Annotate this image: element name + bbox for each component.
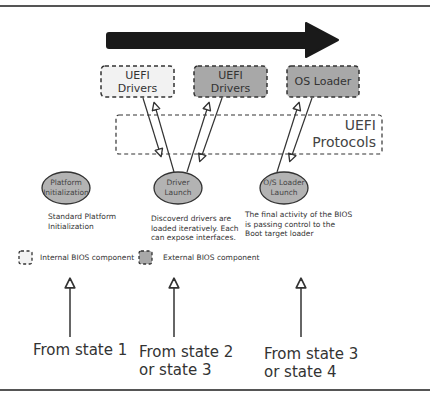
driver-launch-line2: Launch	[164, 188, 191, 198]
driver-launch-description: Discoverd drivers are loaded iteratively…	[151, 214, 239, 243]
entry-state-2-label: From state 2 or state 3	[139, 343, 233, 379]
os-loader-launch-line2: Launch	[263, 188, 304, 198]
platform-initialization-line1: Platform	[43, 178, 89, 188]
driver-desc-line1: Discoverd drivers are	[151, 214, 239, 224]
legend-internal-label: Internal BIOS component	[40, 253, 134, 263]
uefi-protocols-line2: Protocols	[290, 134, 376, 151]
entry-state-1-label: From state 1	[33, 341, 127, 359]
os-loader-label: OS Loader	[287, 66, 359, 97]
os-loader-desc-line2: is passing control to the	[245, 220, 352, 230]
platform-initialization-label: Platform Initialization	[42, 172, 90, 204]
legend-external-swatch-icon	[139, 251, 152, 264]
uefi-drivers-external-line1: UEFI	[211, 69, 251, 82]
driver-launch-line1: Driver	[164, 178, 191, 188]
uefi-protocols-line1: UEFI	[290, 117, 376, 134]
entry-state-2-line2: or state 3	[139, 361, 233, 379]
entry-state-2-line1: From state 2	[139, 343, 233, 361]
entry-state-3-line1: From state 3	[264, 345, 358, 363]
driver-interaction-arrows	[143, 98, 312, 172]
uefi-drivers-internal-line2: Drivers	[118, 82, 158, 95]
entry-state-3-label: From state 3 or state 4	[264, 345, 358, 381]
os-loader-line1: OS Loader	[295, 75, 352, 88]
entry-state-1-line1: From state 1	[33, 341, 127, 359]
platform-initialization-line2: Initialization	[43, 188, 89, 198]
os-loader-launch-label: O/S Loader Launch	[260, 172, 308, 204]
os-loader-desc-line3: Boot target loader	[245, 229, 352, 239]
os-loader-launch-line1: O/S Loader	[263, 178, 304, 188]
uefi-protocols-label: UEFI Protocols	[290, 117, 376, 151]
driver-desc-line2: loaded iteratively. Each	[151, 224, 239, 234]
driver-desc-line3: can expose interfaces.	[151, 233, 239, 243]
driver-launch-label: Driver Launch	[154, 172, 202, 204]
platform-initialization-description: Standard Platform Initialization	[48, 212, 116, 231]
legend-internal-swatch-icon	[19, 251, 32, 264]
os-loader-launch-description: The final activity of the BIOS is passin…	[245, 210, 352, 239]
legend-external-label: External BIOS component	[163, 253, 259, 263]
uefi-drivers-internal-line1: UEFI	[118, 69, 158, 82]
uefi-drivers-external-line2: Drivers	[211, 82, 251, 95]
platform-desc-line1: Standard Platform	[48, 212, 116, 222]
os-loader-desc-line1: The final activity of the BIOS	[245, 210, 352, 220]
entry-state-3-line2: or state 4	[264, 363, 358, 381]
platform-desc-line2: Initialization	[48, 222, 116, 232]
uefi-drivers-external-label: UEFI Drivers	[194, 66, 267, 97]
timeline-arrow-icon	[106, 23, 338, 57]
uefi-drivers-internal-label: UEFI Drivers	[101, 66, 174, 97]
